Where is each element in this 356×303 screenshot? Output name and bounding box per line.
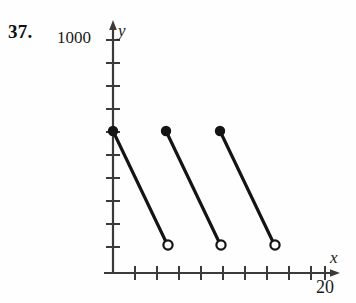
segment-3-open-circle — [270, 240, 279, 249]
segment-3-line — [220, 131, 274, 244]
graph-segment-1 — [108, 126, 173, 250]
coordinate-plot: y x — [0, 0, 356, 303]
segment-2-open-circle — [216, 240, 225, 249]
segment-1-closed-dot — [108, 126, 118, 136]
y-axis — [106, 20, 120, 274]
segment-1-open-circle — [163, 240, 172, 249]
x-axis — [104, 266, 340, 280]
graph-segment-2 — [161, 126, 226, 250]
graph-segment-3 — [215, 126, 280, 250]
x-axis-letter: x — [329, 248, 338, 267]
x-axis-end-label: 20 — [316, 277, 334, 298]
x-axis-arrowhead — [330, 269, 340, 277]
figure-container: 37. 1000 y — [0, 0, 356, 303]
y-axis-letter: y — [116, 21, 126, 40]
segment-2-closed-dot — [161, 126, 171, 136]
segment-3-closed-dot — [215, 126, 225, 136]
y-axis-arrowhead — [109, 20, 117, 30]
segment-1-line — [113, 131, 167, 244]
segment-2-line — [166, 131, 220, 244]
